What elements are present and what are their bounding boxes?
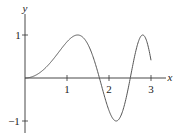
function-plot: 1 2 3 1 −1 x y <box>0 0 175 134</box>
x-axis-label: x <box>167 71 173 83</box>
x-tick-label-2: 2 <box>106 83 112 95</box>
y-tick-label-minus1: −1 <box>8 115 20 127</box>
x-tick-label-3: 3 <box>148 83 154 95</box>
x-tick-label-1: 1 <box>64 83 70 95</box>
y-tick-label-1: 1 <box>15 29 21 41</box>
y-axis-label: y <box>22 2 28 14</box>
